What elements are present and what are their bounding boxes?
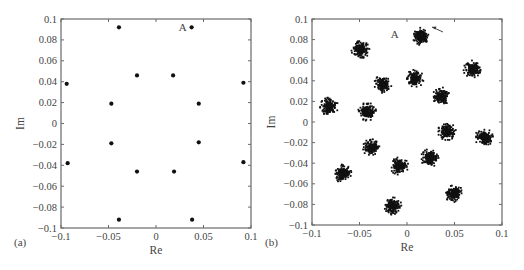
x-axis-label: Re	[401, 241, 414, 253]
y-tick-label: −0.04	[33, 160, 58, 171]
panel-a: −0.1−0.0500.050.10.10.080.060.040.020−0.…	[14, 14, 258, 257]
y-tick-label: 0.08	[39, 34, 57, 45]
x-axis-label: Re	[150, 244, 163, 256]
y-tick-label: −0.06	[33, 181, 57, 192]
cluster	[475, 129, 494, 146]
x-tick-label: 0.05	[194, 231, 212, 242]
cluster	[362, 138, 380, 155]
cluster	[357, 103, 376, 122]
cluster	[463, 60, 482, 79]
x-tick-label: 0.05	[445, 228, 463, 239]
cluster	[406, 69, 424, 88]
y-tick-label: 0.04	[290, 75, 309, 86]
y-tick-label: −0.1	[38, 223, 57, 234]
x-tick-label: 0	[404, 228, 409, 239]
constellation-point	[171, 73, 175, 77]
cluster	[319, 97, 338, 115]
cluster	[384, 197, 402, 216]
plot-frame	[61, 19, 251, 228]
y-tick-label: −0.08	[33, 202, 57, 213]
constellation-point	[241, 160, 245, 164]
y-tick-label: −0.04	[284, 158, 309, 169]
y-axis-label: Im	[14, 117, 26, 130]
constellation-point	[197, 140, 201, 144]
x-tick-label: 0.1	[244, 231, 257, 242]
y-tick-label: −0.08	[284, 199, 308, 210]
figure: −0.1−0.0500.050.10.10.080.060.040.020−0.…	[0, 0, 524, 270]
constellation-point	[66, 161, 70, 165]
y-tick-label: −0.02	[284, 137, 308, 148]
y-tick-label: −0.1	[289, 220, 308, 231]
cluster	[437, 123, 456, 141]
y-tick-label: 0.02	[290, 96, 308, 107]
y-tick-label: −0.02	[33, 139, 57, 150]
plot-frame	[312, 19, 502, 225]
point-a	[190, 25, 194, 29]
annotation-a: A	[391, 28, 399, 40]
constellation-point	[109, 102, 113, 106]
x-tick-label: 0.1	[495, 228, 508, 239]
y-tick-label: −0.06	[284, 178, 308, 189]
cluster	[433, 87, 450, 105]
cluster	[445, 185, 462, 203]
constellation-point	[172, 169, 176, 173]
constellation-point	[190, 218, 194, 222]
y-tick-label: 0.04	[39, 76, 58, 87]
constellation-point	[241, 81, 245, 85]
y-axis-label: Im	[265, 116, 277, 129]
y-tick-label: 0.02	[39, 97, 57, 108]
panel-b: −0.1−0.0500.050.10.10.080.060.040.020−0.…	[265, 14, 509, 254]
y-tick-label: 0.08	[290, 34, 308, 45]
constellation-point	[197, 102, 201, 106]
x-tick-label: −0.05	[96, 231, 120, 242]
cluster	[374, 76, 392, 93]
x-tick-label: 0	[153, 231, 158, 242]
y-tick-label: 0.1	[295, 14, 308, 25]
constellation-point	[109, 141, 113, 145]
constellation-point	[65, 82, 69, 86]
arrow-icon	[432, 26, 443, 32]
panel-label: (a)	[14, 236, 27, 249]
cluster	[421, 149, 440, 167]
y-tick-label: 0	[52, 118, 57, 129]
y-tick-label: 0.1	[44, 14, 57, 25]
cluster-a	[413, 27, 429, 46]
annotation-a: A	[179, 21, 187, 33]
cluster	[351, 40, 371, 58]
cluster	[335, 164, 353, 183]
y-tick-label: 0	[303, 117, 308, 128]
constellation-point	[135, 73, 139, 77]
panel-label: (b)	[265, 236, 278, 249]
x-tick-label: −0.05	[347, 228, 371, 239]
y-tick-label: 0.06	[39, 55, 57, 66]
cluster	[391, 157, 409, 176]
constellation-point	[117, 218, 121, 222]
y-tick-label: 0.06	[290, 55, 308, 66]
constellation-point	[117, 25, 121, 29]
constellation-point	[135, 169, 139, 173]
